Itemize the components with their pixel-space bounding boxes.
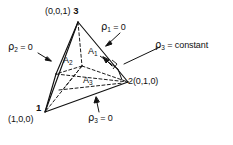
rho1-arrowhead bbox=[106, 41, 112, 46]
edge-apex-to-v1 bbox=[45, 22, 78, 112]
plane-section-outline bbox=[100, 56, 122, 80]
area-a1-label: A1 bbox=[88, 47, 98, 58]
area-a2-label: A2 bbox=[63, 56, 73, 67]
rho3-constant-plane bbox=[100, 56, 122, 80]
vertex-3-coords: (0,0,1) bbox=[45, 6, 70, 16]
vertex-1-coords: (1,0,0) bbox=[8, 115, 33, 124]
area-a3-subscript: 3 bbox=[89, 79, 93, 86]
rho1-relation: = 0 bbox=[111, 22, 126, 32]
rho2-zero-label: ρ2 = 0 bbox=[8, 42, 33, 54]
rho3-zero-label: ρ3 = 0 bbox=[88, 113, 113, 125]
rho3-zero-relation: = 0 bbox=[98, 113, 113, 123]
vertex-1-number: 1 bbox=[36, 103, 41, 113]
edge-back-to-v1 bbox=[45, 74, 56, 112]
rho1-leader bbox=[106, 33, 120, 46]
rho2-leader bbox=[38, 53, 51, 61]
vertex-2-label: 2(0,1,0) bbox=[128, 77, 158, 86]
rho3-zero-arrowhead bbox=[94, 97, 99, 103]
area-a3-label: A3 bbox=[83, 76, 93, 87]
area-a1-subscript: 1 bbox=[94, 50, 98, 57]
rho1-zero-label: ρ1 = 0 bbox=[101, 22, 126, 34]
rho3-zero-leader bbox=[94, 97, 99, 112]
rho2-relation: = 0 bbox=[18, 42, 33, 52]
vertex-3-number: 3 bbox=[73, 5, 78, 16]
rho3-constant-relation: = constant bbox=[165, 40, 208, 50]
dashed-apex-to-interior bbox=[78, 22, 82, 66]
rho3-constant-label: ρ3 = constant bbox=[155, 40, 208, 52]
area-a2-subscript: 2 bbox=[69, 59, 73, 66]
tetrahedron-figure: (0,0,1)3 ρ1 = 0 ρ2 = 0 ρ3 = constant A1 … bbox=[0, 0, 233, 145]
vertex-3-label: (0,0,1)3 bbox=[45, 6, 79, 16]
